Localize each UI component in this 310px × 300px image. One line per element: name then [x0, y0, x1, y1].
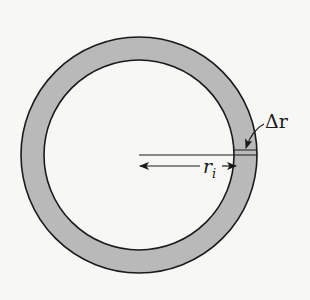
ring-diagram: ri Δr: [0, 0, 310, 300]
thickness-label: Δr: [265, 110, 289, 132]
inner-radius-subscript: i: [212, 166, 216, 181]
